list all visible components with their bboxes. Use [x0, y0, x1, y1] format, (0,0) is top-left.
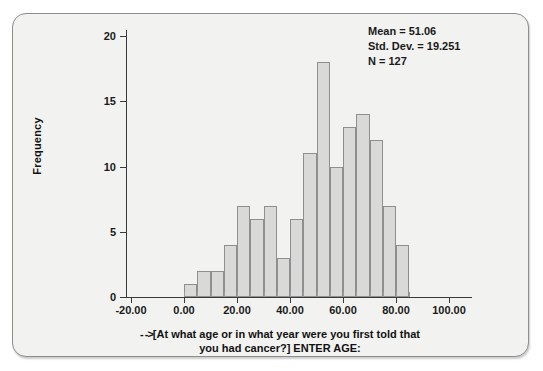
x-axis-minor-tick	[343, 292, 344, 297]
y-axis-tick-label: 15	[76, 96, 116, 107]
histogram-bar	[317, 62, 330, 297]
x-axis-minor-tick	[370, 292, 371, 297]
sample-size-value: N = 127	[368, 54, 460, 69]
histogram-bar	[184, 284, 197, 297]
histogram-bar	[396, 245, 409, 297]
x-axis-tick	[396, 298, 397, 303]
x-axis-minor-tick	[303, 292, 304, 297]
y-axis-tick-label: 10	[76, 162, 116, 173]
x-axis-minor-tick	[264, 292, 265, 297]
x-axis-minor-tick	[211, 292, 212, 297]
histogram-bar	[211, 271, 224, 297]
x-axis-tick-label: 100.00	[414, 305, 484, 316]
y-axis-tick	[120, 167, 126, 168]
x-axis-minor-tick	[396, 292, 397, 297]
x-axis-minor-tick	[250, 292, 251, 297]
y-axis-title: Frequency	[31, 86, 43, 206]
x-axis-tick	[131, 298, 132, 303]
histogram-bar	[343, 127, 356, 297]
histogram-bar	[237, 206, 250, 297]
histogram-bar	[303, 153, 316, 297]
x-axis-minor-tick	[383, 292, 384, 297]
x-axis-minor-tick	[317, 292, 318, 297]
y-axis-tick-label: 20	[76, 31, 116, 42]
y-axis-tick	[120, 232, 126, 233]
x-axis-tick	[290, 298, 291, 303]
x-axis-minor-tick	[237, 292, 238, 297]
std-dev-value: Std. Dev. = 19.251	[368, 39, 460, 54]
histogram-plot: 05101520 -20.000.0020.0040.0060.0080.001…	[0, 0, 543, 371]
x-axis-tick	[343, 298, 344, 303]
x-axis-title: - ->[At what age or in what year were yo…	[100, 327, 460, 355]
x-axis-minor-tick	[330, 292, 331, 297]
y-axis-tick	[120, 297, 126, 298]
x-axis-title-line-1: - ->[At what age or in what year were yo…	[100, 327, 460, 341]
x-axis-tick	[449, 298, 450, 303]
x-axis-minor-tick	[224, 292, 225, 297]
x-axis-tick	[184, 298, 185, 303]
histogram-bar	[264, 206, 277, 297]
y-axis-tick-label: 0	[76, 292, 116, 303]
x-axis-minor-tick	[290, 292, 291, 297]
histogram-bar	[250, 219, 263, 297]
histogram-bar	[383, 206, 396, 297]
mean-value: Mean = 51.06	[368, 24, 460, 39]
dashed-arrow-icon: - ->	[140, 328, 153, 340]
y-axis-tick-label: 5	[76, 227, 116, 238]
x-axis-minor-tick	[356, 292, 357, 297]
x-axis-title-line-2: you had cancer?] ENTER AGE:	[100, 341, 460, 355]
histogram-bar	[224, 245, 237, 297]
statistics-annotation: Mean = 51.06 Std. Dev. = 19.251 N = 127	[368, 24, 460, 69]
x-axis-minor-tick	[409, 292, 410, 297]
histogram-bar	[290, 219, 303, 297]
histogram-bar	[370, 140, 383, 297]
x-axis-minor-tick	[197, 292, 198, 297]
histogram-bar	[197, 271, 210, 297]
x-axis-title-text-1: [At what age or in what year were you fi…	[153, 328, 420, 340]
x-axis-minor-tick	[184, 292, 185, 297]
y-axis-tick	[120, 36, 126, 37]
y-axis-tick	[120, 101, 126, 102]
x-axis-tick	[237, 298, 238, 303]
histogram-bar	[330, 167, 343, 298]
x-axis-minor-tick	[277, 292, 278, 297]
histogram-bar	[356, 114, 369, 297]
histogram-bar	[277, 258, 290, 297]
